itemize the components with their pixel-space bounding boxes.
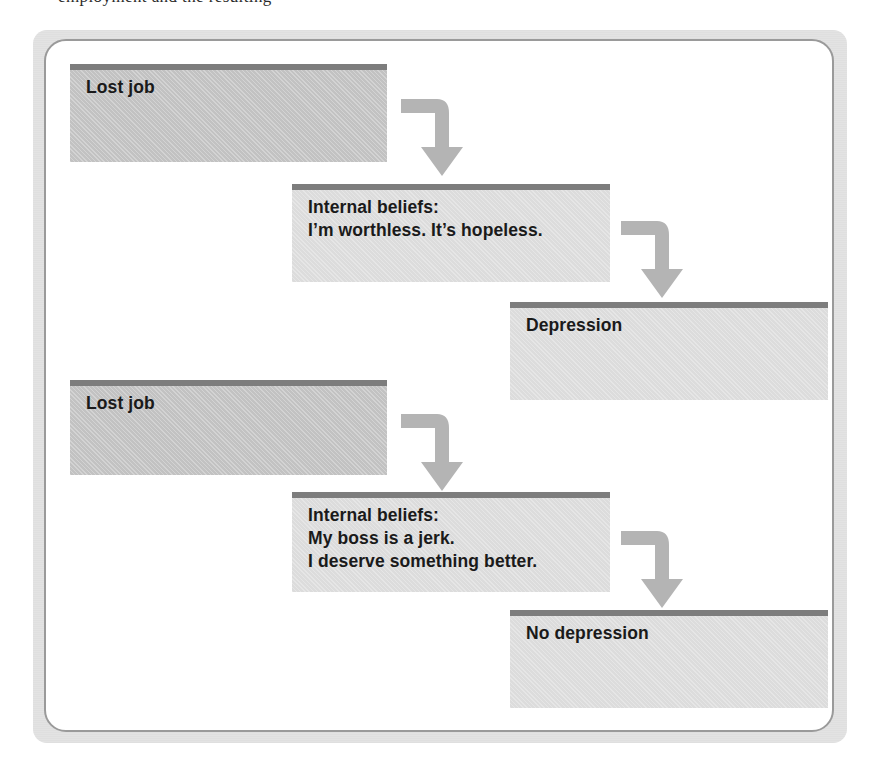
elbow-arrow-down-icon [401, 97, 463, 179]
flow-box-lost-job-1: Lost job [70, 64, 387, 162]
flow-box-label: Lost job [86, 76, 377, 99]
flow-box-depression: Depression [510, 302, 828, 400]
figure-root: employment and the resulting Lost job In… [0, 0, 880, 773]
flow-box-internal-beliefs-2: Internal beliefs: My boss is a jerk. I d… [292, 492, 610, 592]
flow-box-no-depression: No depression [510, 610, 828, 708]
flow-box-label: Internal beliefs: I’m worthless. It’s ho… [308, 196, 600, 242]
elbow-arrow-down-icon [621, 219, 683, 301]
clipped-body-text-above-figure: employment and the resulting [58, 0, 558, 7]
figure-panel: Lost job Internal beliefs: I’m worthless… [44, 39, 834, 732]
flow-box-internal-beliefs-1: Internal beliefs: I’m worthless. It’s ho… [292, 184, 610, 282]
flow-box-lost-job-2: Lost job [70, 380, 387, 475]
flow-box-label: Depression [526, 314, 818, 337]
flow-box-label: No depression [526, 622, 818, 645]
flow-box-label: Internal beliefs: My boss is a jerk. I d… [308, 504, 600, 573]
flow-box-label: Lost job [86, 392, 377, 415]
elbow-arrow-down-icon [401, 412, 463, 494]
elbow-arrow-down-icon [621, 529, 683, 611]
